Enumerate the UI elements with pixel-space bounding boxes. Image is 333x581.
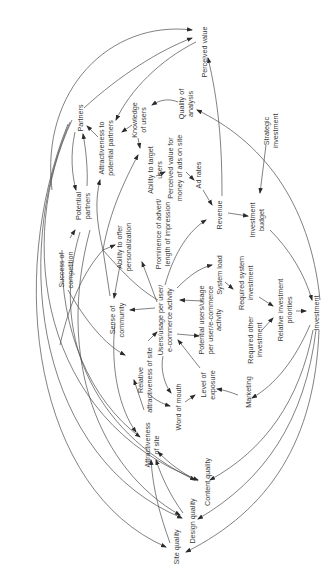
node-ability-target: Ability to targetusers xyxy=(146,146,163,194)
node-partners: Partners xyxy=(76,104,85,132)
node-word-of-mouth: Word of mouth xyxy=(174,383,183,430)
edge-content-attrsite xyxy=(158,452,198,481)
node-ability-personalization: Ability to offerpersonalization xyxy=(115,223,132,271)
edge-system-load-required xyxy=(225,282,233,289)
node-relative-investment-priorities: Relative investmentpriorities xyxy=(276,279,293,342)
node-marketing: Marketing xyxy=(244,376,253,408)
node-revenue: Revenue xyxy=(215,201,224,230)
edge-personalization-sense xyxy=(114,265,120,298)
node-relative-attractiveness: Relativeattractiveness of site xyxy=(136,347,153,413)
edge-cross-to-personalization xyxy=(103,245,115,250)
causal-loop-diagram: Perceived valuePartnersAttractiveness to… xyxy=(0,0,333,581)
edge-success-potential-partners xyxy=(70,230,75,238)
node-required-system-investment: Required systeminvestment xyxy=(237,256,254,310)
edge-wom-exposure xyxy=(185,395,195,402)
node-design-quality: Design quality xyxy=(188,498,197,544)
node-prominence-advert: Prominence of advert/length of impressio… xyxy=(154,199,171,269)
node-sense-community: Sense ofcommunity xyxy=(108,302,125,337)
edge-revenue-perceived-value xyxy=(208,58,222,196)
edge-knowledge-ability-target xyxy=(138,138,140,148)
node-system-load: System load xyxy=(215,255,224,295)
edge-left-to-design xyxy=(78,230,180,515)
node-investment: Investment xyxy=(312,295,321,330)
edge-users-system-load xyxy=(177,265,212,288)
edge-required-other-priorities xyxy=(262,318,273,330)
node-quality-analysis: Quality ofanalysis xyxy=(177,89,194,119)
node-content-quality: Content quality xyxy=(203,458,212,506)
node-perceived-value: Perceived value xyxy=(200,26,209,77)
edge-ad-rates-revenue xyxy=(203,190,212,205)
edge-quality-analysis-knowledge xyxy=(152,100,178,105)
nodes: Perceived valuePartnersAttractiveness to… xyxy=(57,26,320,564)
node-potential-users: Potential users/usageper user/e-commerce… xyxy=(197,285,222,354)
node-level-exposure: Level ofexposure xyxy=(199,370,216,400)
edge-cross-to-attr-partners xyxy=(97,180,103,250)
node-knowledge-users: Knowledgeof users xyxy=(130,102,147,138)
node-strategic-investment: Strategicinvestment xyxy=(262,114,279,149)
edge-sense-attrsite xyxy=(114,323,136,432)
edge-attractiveness-partners xyxy=(87,126,98,137)
edge-partners-perceived-value xyxy=(84,38,192,108)
node-site-quality: Site quality xyxy=(172,529,181,565)
node-success-competition: Success ofcompetition xyxy=(57,252,74,289)
edge-revenue-investment-budget xyxy=(228,213,248,216)
node-investment-budget: Investmentbudget xyxy=(248,202,265,237)
edge-marketing-exposure xyxy=(217,389,238,395)
node-required-other-investment: Required otherinvestment xyxy=(246,316,263,364)
node-users-usage: Users/usage per user/e-commerce activity xyxy=(156,285,173,356)
node-attractiveness-partners: Attractiveness topotential partners xyxy=(97,120,114,176)
edge-strategic-investment-budget xyxy=(260,145,266,193)
edge-potential-partners xyxy=(83,134,87,186)
edge-users-potential-users xyxy=(177,334,199,336)
node-perceived-value-ads: Perceived value formoney of ads on site xyxy=(166,135,183,201)
edge-required-sys-priorities xyxy=(259,297,273,306)
edge-users-wom xyxy=(162,356,171,393)
node-ad-rates: Ad rates xyxy=(194,161,203,188)
edge-partners-potential xyxy=(72,132,76,190)
node-potential-partners: Potentialpartners xyxy=(74,192,91,220)
edge-design-attrsite xyxy=(156,460,183,513)
edge-users-sense xyxy=(130,308,155,310)
